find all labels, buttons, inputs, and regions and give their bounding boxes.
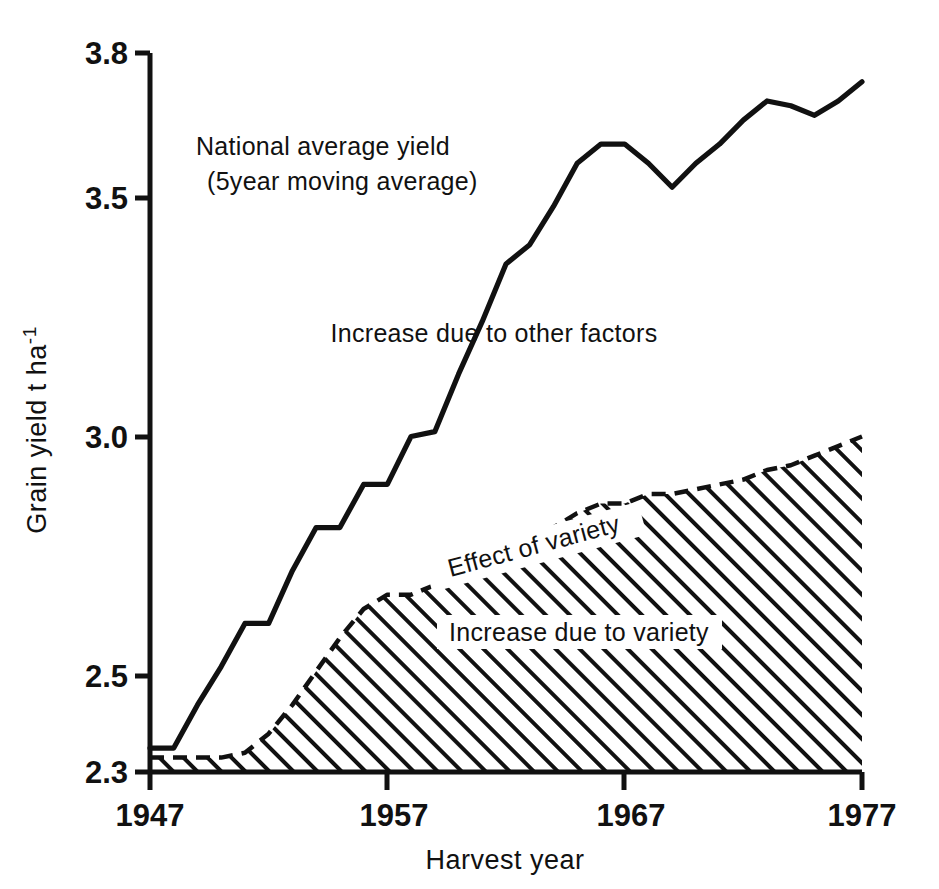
x-axis-title: Harvest year: [425, 845, 584, 875]
y-tick-label-3-5: 3.5: [85, 181, 128, 216]
x-tick-label-1957: 1957: [360, 798, 429, 833]
svg-text:Grain yield t ha-1: Grain yield t ha-1: [19, 326, 52, 534]
figure-root: 3.8 3.5 3.0 2.5 2.3 1947 1957 1967 1977 …: [0, 0, 939, 889]
increase-due-to-variety-region: [150, 436, 862, 772]
x-tick-label-1947: 1947: [116, 798, 185, 833]
x-axis-ticks: [150, 772, 862, 790]
grain-yield-chart: 3.8 3.5 3.0 2.5 2.3 1947 1957 1967 1977 …: [0, 0, 939, 889]
annotation-increase-due-to-variety: Increase due to variety: [437, 615, 722, 649]
x-tick-label-1967: 1967: [597, 798, 666, 833]
x-tick-label-1977: 1977: [828, 798, 897, 833]
y-tick-label-3-8: 3.8: [85, 36, 128, 71]
annotation-other-factors: Increase due to other factors: [331, 319, 658, 347]
svg-text:Increase due to variety: Increase due to variety: [449, 618, 709, 646]
y-tick-label-3-0: 3.0: [85, 420, 128, 455]
y-axis-title-text: Grain yield t ha: [22, 344, 52, 534]
annotation-national-average-line2: (5year moving average): [207, 167, 478, 195]
annotation-national-average-line1: National average yield: [196, 132, 450, 160]
y-axis-title-exponent: -1: [19, 326, 40, 344]
y-tick-label-2-3: 2.3: [85, 755, 128, 790]
y-axis-title: Grain yield t ha-1: [19, 326, 52, 534]
y-tick-label-2-5: 2.5: [85, 659, 128, 694]
